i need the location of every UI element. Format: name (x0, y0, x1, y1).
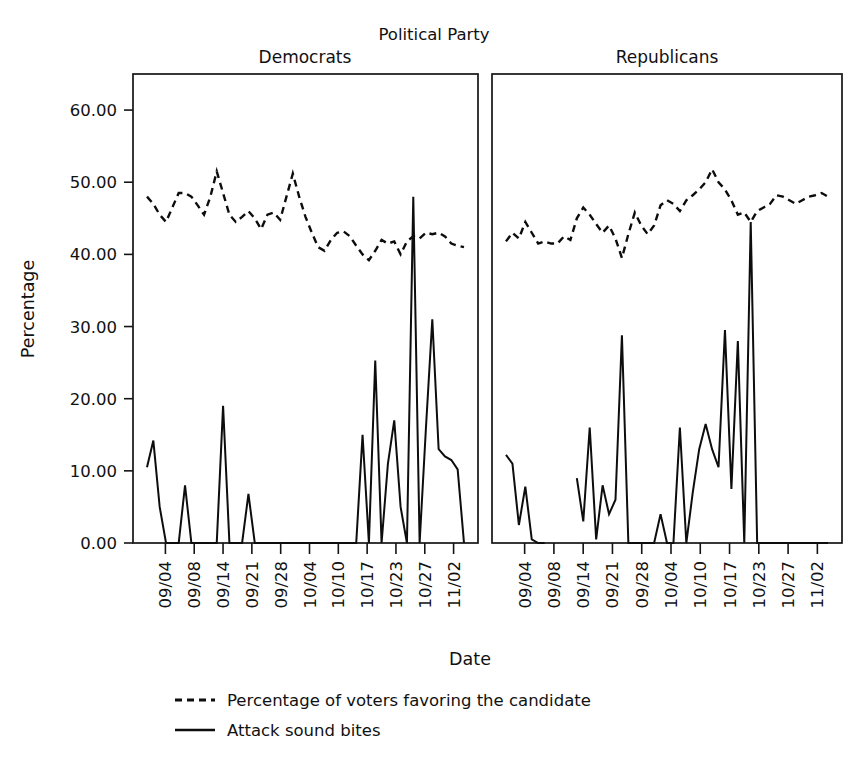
legend-label: Attack sound bites (227, 721, 381, 740)
x-tick-label: 10/04 (662, 561, 681, 609)
x-tick-label: 09/21 (243, 561, 262, 609)
panel-republicans: 09/0409/0809/1409/2109/2810/0410/1010/17… (492, 74, 842, 609)
x-tick-label: 10/23 (387, 561, 406, 609)
x-tick-label: 09/14 (214, 561, 233, 609)
series-line-dashed (147, 171, 464, 260)
x-tick-label: 10/23 (750, 561, 769, 609)
panel-frame (133, 74, 478, 543)
chart-figure: Political Party Democrats Republicans Pe… (0, 0, 868, 762)
y-tick-label: 40.00 (70, 245, 117, 264)
chart-title: Political Party (378, 25, 489, 44)
chart-canvas: Political Party Democrats Republicans Pe… (0, 0, 868, 762)
x-tick-label: 11/02 (808, 561, 827, 609)
x-tick-label: 09/08 (545, 561, 564, 609)
panel-title-republicans: Republicans (616, 47, 719, 67)
x-tick-label: 09/28 (633, 561, 652, 609)
y-tick-label: 50.00 (70, 173, 117, 192)
x-tick-label: 09/08 (185, 561, 204, 609)
y-axis: 0.0010.0020.0030.0040.0050.0060.00 (70, 101, 133, 553)
panel-democrats: 09/0409/0809/1409/2109/2810/0410/1010/17… (133, 74, 478, 609)
series-line-solid (147, 197, 464, 543)
x-tick-label: 11/02 (445, 561, 464, 609)
y-tick-label: 0.00 (80, 534, 117, 553)
y-tick-label: 20.00 (70, 390, 117, 409)
x-tick-label: 10/04 (301, 561, 320, 609)
chart-legend: Percentage of voters favoring the candid… (175, 691, 591, 740)
x-tick-label: 09/28 (272, 561, 291, 609)
x-tick-label: 10/17 (358, 561, 377, 609)
panel-title-democrats: Democrats (259, 47, 352, 67)
y-axis-title: Percentage (18, 260, 38, 358)
y-tick-label: 30.00 (70, 318, 117, 337)
x-tick-label: 09/04 (156, 561, 175, 609)
series-line-dashed (506, 169, 828, 258)
x-tick-label: 10/10 (329, 561, 348, 609)
x-tick-label: 10/17 (721, 561, 740, 609)
x-tick-label: 10/27 (779, 561, 798, 609)
x-axis-title: Date (449, 649, 491, 669)
y-tick-label: 60.00 (70, 101, 117, 120)
panels-container: 09/0409/0809/1409/2109/2810/0410/1010/17… (133, 74, 842, 609)
x-tick-label: 09/14 (574, 561, 593, 609)
x-tick-label: 10/27 (416, 561, 435, 609)
x-tick-label: 10/10 (691, 561, 710, 609)
legend-label: Percentage of voters favoring the candid… (227, 691, 591, 710)
series-line-solid (506, 222, 828, 543)
y-tick-label: 10.00 (70, 462, 117, 481)
x-tick-label: 09/21 (603, 561, 622, 609)
x-tick-label: 09/04 (516, 561, 535, 609)
panel-frame (492, 74, 842, 543)
